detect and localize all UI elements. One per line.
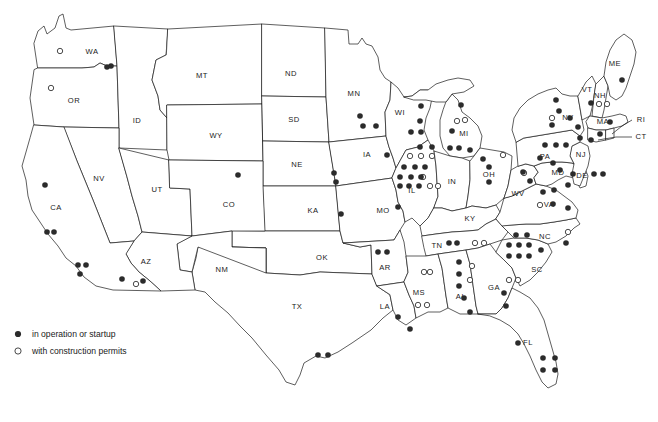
marker-in-operation xyxy=(552,355,558,361)
state-label-WA: WA xyxy=(86,47,99,56)
marker-in-operation xyxy=(408,129,414,135)
marker-in-operation xyxy=(235,172,241,178)
marker-in-operation xyxy=(446,240,452,246)
marker-construction-permit xyxy=(57,48,62,53)
legend-filled-dot-icon xyxy=(15,331,21,337)
marker-in-operation xyxy=(549,122,555,128)
marker-in-operation xyxy=(331,170,337,176)
marker-in-operation xyxy=(540,189,546,195)
state-label-MN: MN xyxy=(348,89,361,98)
state-label-IN: IN xyxy=(448,177,457,186)
state-shape-MIUP xyxy=(404,78,474,102)
marker-in-operation xyxy=(557,167,563,173)
marker-in-operation xyxy=(553,97,559,103)
marker-in-operation xyxy=(418,174,424,180)
state-label-SC: SC xyxy=(531,265,543,274)
state-label-CT: CT xyxy=(635,132,646,141)
marker-in-operation xyxy=(417,144,423,150)
state-label-NC: NC xyxy=(539,232,551,241)
state-shape-IA xyxy=(329,136,396,186)
state-label-ND: ND xyxy=(285,69,297,78)
state-label-VT: VT xyxy=(582,85,593,94)
marker-in-operation xyxy=(140,278,146,284)
marker-in-operation xyxy=(456,145,462,151)
state-label-NE: NE xyxy=(291,160,303,169)
marker-in-operation xyxy=(461,295,467,301)
marker-construction-permit xyxy=(429,153,434,158)
marker-in-operation xyxy=(527,178,533,184)
marker-in-operation xyxy=(429,144,435,150)
marker-in-operation xyxy=(577,135,583,141)
marker-construction-permit xyxy=(421,269,426,274)
state-label-ID: ID xyxy=(133,116,142,125)
state-label-SD: SD xyxy=(288,115,300,124)
marker-in-operation xyxy=(77,271,83,277)
marker-in-operation xyxy=(591,171,597,177)
state-shape-ND xyxy=(262,24,326,97)
state-label-MI: MI xyxy=(459,129,468,138)
marker-in-operation xyxy=(588,100,594,106)
marker-in-operation xyxy=(456,271,462,277)
state-label-TX: TX xyxy=(292,302,303,311)
marker-in-operation xyxy=(75,262,81,268)
marker-in-operation xyxy=(515,340,521,346)
marker-in-operation xyxy=(516,253,522,259)
marker-in-operation xyxy=(397,183,403,189)
marker-in-operation xyxy=(520,169,526,175)
marker-in-operation xyxy=(422,164,428,170)
marker-in-operation xyxy=(513,232,519,238)
marker-in-operation xyxy=(526,253,532,259)
state-label-ME: ME xyxy=(609,59,621,68)
marker-in-operation xyxy=(556,108,562,114)
marker-in-operation xyxy=(407,326,413,332)
state-label-AR: AR xyxy=(379,263,391,272)
marker-in-operation xyxy=(550,201,556,207)
marker-in-operation xyxy=(575,124,581,130)
marker-in-operation xyxy=(456,283,462,289)
marker-in-operation xyxy=(384,249,390,255)
marker-construction-permit xyxy=(506,277,511,282)
state-label-KA: KA xyxy=(307,206,319,215)
marker-in-operation xyxy=(486,164,492,170)
marker-in-operation xyxy=(44,229,50,235)
us-map-figure: WAORIDMTWYNDSDNEKAOKTXNVUTCONMAZCAMNIAMO… xyxy=(0,0,658,422)
marker-construction-permit xyxy=(565,229,570,234)
marker-in-operation xyxy=(570,171,576,177)
marker-in-operation xyxy=(467,147,473,153)
marker-construction-permit xyxy=(515,277,520,282)
marker-in-operation xyxy=(506,253,512,259)
marker-in-operation xyxy=(108,63,114,69)
marker-in-operation xyxy=(418,103,424,109)
state-label-IA: IA xyxy=(363,150,372,159)
state-label-CO: CO xyxy=(223,200,235,209)
marker-in-operation xyxy=(607,119,613,125)
marker-in-operation xyxy=(565,182,571,188)
marker-in-operation xyxy=(567,115,573,121)
marker-in-operation xyxy=(417,118,423,124)
state-label-MT: MT xyxy=(196,71,208,80)
marker-in-operation xyxy=(565,205,571,211)
state-label-DE: DE xyxy=(576,171,588,180)
state-label-NM: NM xyxy=(216,265,229,274)
marker-in-operation xyxy=(486,179,492,185)
marker-in-operation xyxy=(553,142,559,148)
marker-in-operation xyxy=(503,303,509,309)
state-shape-KA xyxy=(263,186,340,231)
marker-in-operation xyxy=(542,142,548,148)
marker-construction-permit xyxy=(435,183,440,188)
marker-in-operation xyxy=(315,352,321,358)
state-label-AZ: AZ xyxy=(141,257,152,266)
marker-in-operation xyxy=(408,174,414,180)
marker-construction-permit xyxy=(415,302,420,307)
marker-construction-permit xyxy=(500,152,505,157)
marker-in-operation xyxy=(51,229,57,235)
marker-construction-permit xyxy=(427,269,432,274)
marker-construction-permit xyxy=(596,101,601,106)
marker-in-operation xyxy=(501,290,507,296)
marker-in-operation xyxy=(526,242,532,248)
state-shape-MO xyxy=(336,178,405,243)
marker-construction-permit xyxy=(604,101,609,106)
state-shape-WA xyxy=(34,14,117,68)
state-label-OR: OR xyxy=(68,96,80,105)
marker-in-operation xyxy=(540,355,546,361)
